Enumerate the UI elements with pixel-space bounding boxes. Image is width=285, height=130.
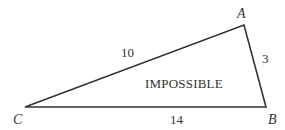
- vertex-label-c: C: [13, 112, 23, 127]
- side-label-cb: 14: [170, 112, 184, 127]
- triangle-diagram: A B C 10 3 14 IMPOSSIBLE: [0, 0, 285, 130]
- triangle-shape: [25, 25, 266, 107]
- vertex-label-b: B: [268, 112, 277, 127]
- triangle-center-label: IMPOSSIBLE: [145, 76, 223, 91]
- side-label-ca: 10: [121, 45, 134, 60]
- vertex-label-a: A: [236, 6, 246, 21]
- side-label-ab: 3: [262, 51, 269, 66]
